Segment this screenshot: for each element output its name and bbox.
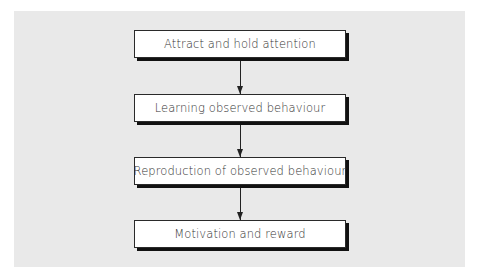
arrow-down-icon (240, 125, 241, 157)
step-box-motivation-reward: Motivation and reward (134, 220, 346, 248)
step-box-attract-attention: Attract and hold attention (134, 30, 346, 58)
arrow-down-icon (240, 188, 241, 220)
step-label: Motivation and reward (174, 227, 305, 241)
step-box-learning-behaviour: Learning observed behaviour (134, 94, 346, 122)
step-label: Attract and hold attention (164, 37, 316, 51)
step-box-reproduction-behaviour: Reproduction of observed behaviour (134, 157, 346, 185)
step-label: Learning observed behaviour (155, 101, 326, 115)
arrow-down-icon (240, 61, 241, 94)
step-label: Reproduction of observed behaviour (134, 164, 347, 178)
